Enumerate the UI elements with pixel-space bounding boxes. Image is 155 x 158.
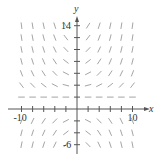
slope-segment <box>85 84 91 86</box>
slope-segment <box>42 71 46 77</box>
slope-segment <box>53 71 58 76</box>
slope-segment <box>43 22 44 28</box>
slope-segment <box>86 47 91 52</box>
slope-segment <box>53 142 56 148</box>
slope-segment <box>43 142 45 148</box>
slope-segment <box>132 58 134 64</box>
slope-segment <box>21 34 22 41</box>
x-axis-label: x <box>148 103 154 114</box>
slope-segment <box>120 130 122 136</box>
slope-segment <box>31 70 34 76</box>
slope-segment <box>97 119 102 124</box>
slope-segment <box>53 59 57 65</box>
slope-segment <box>63 59 68 63</box>
slope-segment <box>19 83 23 88</box>
y-axis-label: y <box>73 3 79 14</box>
slope-segment <box>64 35 68 40</box>
slope-segment <box>120 118 123 124</box>
slope-segment <box>42 58 45 64</box>
slope-segment <box>21 46 22 52</box>
slope-segment <box>32 58 34 64</box>
slope-segment <box>21 141 22 147</box>
slope-segment <box>97 71 102 76</box>
slope-segment <box>109 71 113 77</box>
slope-segment <box>132 22 133 29</box>
slope-segment <box>43 46 45 52</box>
slope-segment <box>120 70 123 76</box>
slope-segment <box>63 84 69 86</box>
slope-segment <box>109 34 111 40</box>
slope-segment <box>109 58 112 64</box>
slope-segment <box>54 35 56 41</box>
slope-segment <box>109 130 112 136</box>
slope-segment <box>63 119 69 122</box>
slope-segment <box>108 83 113 87</box>
slope-segment <box>54 23 56 29</box>
slope-segment <box>85 59 90 63</box>
slope-segment <box>30 83 35 88</box>
slope-segment <box>32 130 34 136</box>
slope-segment <box>53 119 58 124</box>
slope-segment <box>42 118 46 124</box>
slope-segment <box>64 47 69 52</box>
slope-segment <box>96 84 102 87</box>
slope-segment <box>53 130 57 136</box>
axes <box>8 16 150 154</box>
y-axis-arrow-icon <box>75 16 79 22</box>
x-min-tick-label: -10 <box>14 112 27 123</box>
slope-segment <box>132 141 133 147</box>
slope-segment <box>43 34 45 40</box>
slope-segment <box>32 46 34 52</box>
slope-segment <box>109 118 113 124</box>
slope-segment <box>120 58 122 64</box>
slope-segment <box>86 35 90 40</box>
slope-segment <box>31 118 34 124</box>
slope-segment <box>109 46 111 52</box>
x-max-tick-label: 10 <box>128 112 138 123</box>
slope-field-plot: x y -10 10 14 -6 <box>0 0 155 158</box>
slope-segment <box>85 72 91 75</box>
slope-segment <box>85 119 91 122</box>
slope-segment <box>98 142 101 148</box>
slope-segment <box>121 34 122 40</box>
slope-segment <box>131 70 133 76</box>
slope-segment <box>121 46 123 52</box>
slope-segment <box>86 23 90 29</box>
slope-segment <box>85 131 90 135</box>
slope-segment <box>63 131 68 135</box>
slope-segment <box>119 83 124 88</box>
slope-segment <box>20 70 22 76</box>
y-min-tick-label: -6 <box>63 139 71 150</box>
slope-segment <box>52 84 58 87</box>
slope-segment <box>21 130 23 136</box>
slope-segment <box>53 47 56 53</box>
slope-segment <box>110 22 111 28</box>
slope-segment <box>130 83 134 88</box>
slope-segment <box>109 142 111 148</box>
slope-segment <box>32 141 34 147</box>
slope-segment <box>132 130 134 136</box>
slope-segment <box>21 58 23 64</box>
slope-segment <box>32 34 33 40</box>
y-max-tick-label: 14 <box>61 20 71 31</box>
slope-segment <box>98 23 100 29</box>
slope-segment <box>97 59 101 65</box>
slope-segment <box>132 34 133 41</box>
slope-segment <box>132 46 133 52</box>
slope-segment <box>121 22 122 29</box>
slope-field-chart: x y -10 10 14 -6 <box>0 0 155 158</box>
slope-segment <box>41 83 46 87</box>
slope-segment <box>63 72 69 75</box>
slope-segment <box>42 130 45 136</box>
slope-segment <box>121 141 123 147</box>
slope-segment <box>98 47 101 53</box>
slope-segment <box>97 130 101 136</box>
slope-segment <box>32 22 33 29</box>
slope-segment <box>21 22 22 29</box>
slope-segment <box>98 35 100 41</box>
slope-segment <box>86 142 91 147</box>
